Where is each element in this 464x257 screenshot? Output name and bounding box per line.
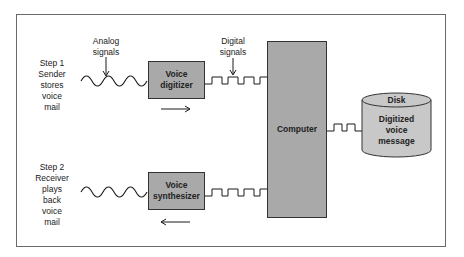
digital-pointer-arrow <box>230 58 236 75</box>
analog-pointer-arrow <box>103 57 109 76</box>
disk-content: Digitized voice message <box>362 114 431 147</box>
computer-box: Computer <box>267 41 327 218</box>
step2-label: Step 2 Receiver plays back voice mail <box>22 162 82 228</box>
voice-synthesizer-box: Voice synthesizer <box>148 172 205 210</box>
analog-wave-bottom <box>81 187 147 197</box>
digital-signal-bottom <box>205 189 267 196</box>
analog-signals-label: Analog signals <box>81 36 131 58</box>
analog-wave-top <box>81 76 147 86</box>
digital-signal-disk <box>327 124 362 131</box>
disk-title: Disk <box>362 95 431 106</box>
arrow-left-icon <box>161 219 190 225</box>
digital-signals-label: Digital signals <box>208 36 258 58</box>
voice-digitizer-box: Voice digitizer <box>148 61 205 99</box>
step1-label: Step 1 Sender stores voice mail <box>22 58 82 113</box>
digital-signal-top <box>205 77 267 84</box>
arrow-right-icon <box>161 106 190 112</box>
